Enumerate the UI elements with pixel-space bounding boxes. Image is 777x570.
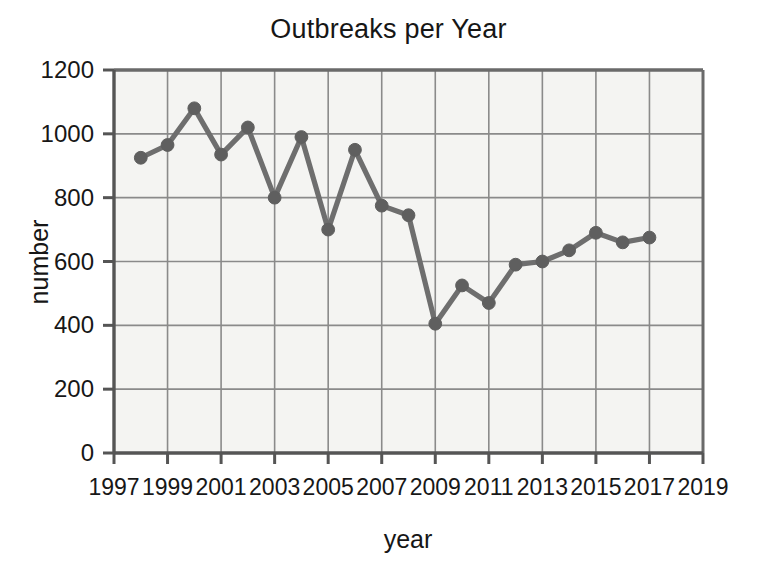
data-point-marker [482,297,495,310]
x-tick-label: 2011 [464,474,513,500]
x-axis-tick-labels: 1997199920012003200520072009201120132015… [88,474,728,500]
data-point-marker [536,255,549,268]
x-tick-label: 1997 [88,474,139,500]
x-tick-label: 2013 [517,474,568,500]
x-tick-label: 2019 [677,474,728,500]
data-point-marker [616,236,629,249]
data-point-marker [402,209,415,222]
data-point-marker [456,279,469,292]
data-point-marker [215,148,228,161]
x-tick-label: 2009 [410,474,461,500]
data-point-marker [429,317,442,330]
chart-figure: Outbreaks per Year 020040060080010001200… [0,0,777,570]
data-point-marker [134,151,147,164]
data-point-marker [509,258,522,271]
data-point-marker [643,231,656,244]
y-tick-label: 1000 [41,120,94,147]
y-axis-label: number [25,220,53,305]
x-tick-label: 1999 [142,474,193,500]
y-tick-label: 600 [54,248,94,275]
data-point-marker [322,223,335,236]
data-point-marker [268,191,281,204]
data-point-marker [563,244,576,257]
x-tick-label: 2015 [570,474,621,500]
y-tick-label: 0 [81,439,94,466]
x-tick-label: 2005 [303,474,354,500]
line-chart-plot: 020040060080010001200 199719992001200320… [0,0,777,570]
data-point-marker [161,139,174,152]
x-tick-label: 2001 [196,474,247,500]
data-point-marker [241,121,254,134]
x-axis-label: year [384,525,433,553]
y-tick-label: 200 [54,375,94,402]
x-tick-label: 2003 [249,474,300,500]
data-point-marker [295,131,308,144]
data-point-marker [349,143,362,156]
data-point-marker [375,199,388,212]
data-point-marker [188,102,201,115]
y-tick-label: 400 [54,311,94,338]
x-tick-label: 2017 [624,474,675,500]
y-tick-label: 1200 [41,56,94,83]
data-point-marker [590,226,603,239]
x-tick-label: 2007 [356,474,407,500]
y-tick-label: 800 [54,184,94,211]
